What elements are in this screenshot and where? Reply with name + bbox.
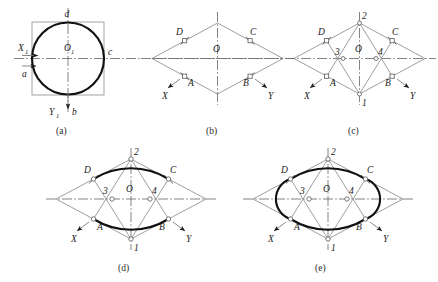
panel-a-caption: (a)	[56, 126, 67, 137]
panel-d-label-a: A	[96, 222, 103, 232]
panel-c-node-a	[325, 74, 329, 78]
panel-c-label-2: 2	[362, 11, 367, 21]
panel-e-node-b	[363, 217, 367, 221]
panel-a-label-a: a	[22, 69, 27, 79]
svg-text:O: O	[64, 43, 71, 53]
panel-d-node-a	[91, 217, 95, 221]
panel-c-label-y: Y	[410, 91, 417, 101]
panel-c-node-c	[390, 39, 394, 43]
panel-c-label-3: 3	[334, 47, 340, 57]
panel-c-node-3	[341, 57, 345, 61]
panel-d-node-b	[166, 217, 170, 221]
panel-e-label-3: 3	[299, 186, 305, 196]
panel-b-label-b: B	[243, 78, 249, 88]
panel-c-label-4: 4	[378, 47, 383, 57]
panel-d-label-d: D	[83, 165, 91, 175]
panel-d: D C A B O 2 1 3 4 X Y (d)	[46, 147, 216, 274]
panel-d-label-2: 2	[134, 147, 139, 157]
construction-figure: d c O 1 X 1 a Y 1 b (a)	[0, 0, 438, 282]
panel-e-node-d	[288, 177, 292, 181]
panel-b-label-d: D	[175, 27, 183, 37]
panel-b-label-c: C	[250, 27, 257, 37]
panel-e-label-d: D	[280, 165, 288, 175]
panel-c-line-2-to-b	[360, 23, 393, 76]
panel-b-y-arrow	[255, 79, 267, 88]
panel-d-caption: (d)	[118, 263, 129, 274]
panel-a-label-c: c	[108, 47, 113, 57]
svg-text:1: 1	[56, 112, 59, 119]
panel-c-node-1	[358, 92, 362, 96]
panel-c-x-arrow	[310, 79, 322, 88]
panel-b-label-center: O	[213, 44, 220, 54]
panel-c-label-x: X	[303, 91, 311, 101]
panel-e-node-2	[326, 157, 330, 161]
panel-e-label-4: 4	[349, 186, 354, 196]
panel-d-label-y: Y	[186, 234, 193, 244]
svg-text:1: 1	[25, 48, 28, 55]
panel-d-node-d	[91, 177, 95, 181]
panel-d-label-4: 4	[152, 186, 157, 196]
panel-b-node-a	[183, 74, 187, 78]
panel-e-x-arrow	[274, 222, 286, 231]
panel-e-label-center: O	[323, 184, 330, 194]
panel-a-label-b: b	[72, 107, 77, 117]
panel-d-y-arrow	[173, 222, 185, 231]
panel-d-label-1: 1	[134, 243, 139, 253]
panel-b-x-arrow	[168, 79, 180, 88]
panel-c-label-a: A	[329, 78, 336, 88]
svg-text:1: 1	[71, 48, 74, 55]
panel-e-caption: (e)	[315, 263, 326, 274]
panel-b-caption: (b)	[206, 126, 217, 137]
panel-a-label-x-axis: X 1	[17, 43, 28, 55]
panel-d-node-2	[129, 157, 133, 161]
panel-b-label-a: A	[187, 78, 194, 88]
panel-e-node-a	[288, 217, 292, 221]
panel-c-node-d	[325, 39, 329, 43]
panel-c-label-1: 1	[362, 98, 367, 108]
svg-text:Y: Y	[49, 107, 56, 117]
panel-a: d c O 1 X 1 a Y 1 b (a)	[14, 8, 142, 137]
panel-b: D C A B O X Y (b)	[141, 12, 294, 137]
panel-c-label-b: B	[385, 78, 391, 88]
panel-e-y-arrow	[370, 222, 382, 231]
panel-e-label-b: B	[356, 222, 362, 232]
figure-container: d c O 1 X 1 a Y 1 b (a)	[0, 0, 438, 282]
panel-c-label-c: C	[392, 27, 399, 37]
panel-d-node-1	[129, 237, 133, 241]
panel-c: D C A B O 2 1 3 4 X Y (c)	[285, 11, 436, 137]
panel-e-label-y: Y	[383, 234, 390, 244]
panel-e-label-a: A	[293, 222, 300, 232]
svg-text:X: X	[17, 43, 25, 53]
panel-c-label-center: O	[355, 44, 362, 54]
panel-a-label-y-axis: Y 1	[49, 107, 59, 119]
panel-e-label-2: 2	[331, 147, 336, 157]
panel-d-node-c	[166, 177, 170, 181]
panel-e-label-1: 1	[331, 243, 336, 253]
panel-d-node-3	[110, 197, 114, 201]
panel-e: D C A B O 2 1 3 4 X Y (e)	[243, 147, 413, 274]
panel-c-caption: (c)	[348, 126, 359, 137]
panel-d-label-b: B	[159, 222, 165, 232]
panel-c-y-arrow	[397, 79, 409, 88]
panel-e-label-c: C	[367, 165, 374, 175]
panel-b-node-d	[183, 39, 187, 43]
panel-b-label-x: X	[161, 91, 169, 101]
panel-a-label-d: d	[65, 9, 70, 19]
panel-e-node-c	[363, 177, 367, 181]
panel-d-x-arrow	[77, 222, 89, 231]
panel-e-node-3	[307, 197, 311, 201]
panel-d-label-3: 3	[102, 186, 108, 196]
panel-a-label-center: O 1	[64, 43, 74, 55]
panel-d-label-center: O	[126, 184, 133, 194]
panel-d-node-4	[148, 197, 152, 201]
panel-e-label-x: X	[267, 234, 275, 244]
panel-c-node-4	[374, 57, 378, 61]
panel-d-label-x: X	[70, 234, 78, 244]
panel-d-label-c: C	[170, 165, 177, 175]
panel-b-node-c	[248, 39, 252, 43]
panel-c-label-d: D	[317, 27, 325, 37]
panel-e-node-1	[326, 237, 330, 241]
panel-e-node-4	[345, 197, 349, 201]
panel-c-node-2	[358, 21, 362, 25]
panel-b-label-y: Y	[268, 91, 275, 101]
